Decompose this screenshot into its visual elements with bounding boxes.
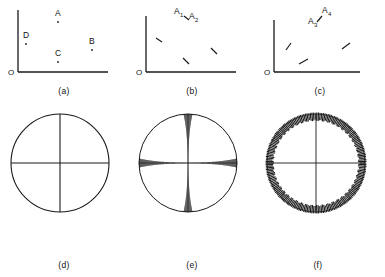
panel-a-graphic: O A D C B	[0, 0, 128, 86]
axes-b	[146, 16, 236, 72]
point-label-D: D	[23, 30, 29, 40]
dash-icon	[211, 48, 217, 54]
dot-icon	[57, 61, 59, 63]
panel-b-graphic: O A 1 A 2	[128, 0, 256, 86]
dash-icon	[286, 43, 291, 50]
panel-b: O A 1 A 2 (b)	[128, 0, 256, 105]
panel-caption-d: (d)	[0, 260, 128, 270]
point-label-A: A	[55, 8, 61, 18]
panel-e-graphic	[128, 110, 256, 258]
panel-e: (e)	[128, 110, 256, 277]
dash-icon-label-tick	[317, 16, 322, 22]
point-marker-a3: C	[55, 48, 61, 63]
panel-d: (d)	[0, 110, 128, 277]
panel-f-graphic	[254, 110, 382, 258]
point-label-C: C	[55, 48, 61, 58]
series-label-A3: A 3	[308, 16, 318, 28]
point-marker-a1: A	[55, 8, 61, 23]
dot-icon	[91, 49, 93, 51]
origin-label-a: O	[8, 68, 14, 77]
label-A3-subscript: 3	[314, 22, 318, 28]
point-label-B: B	[89, 36, 95, 46]
panel-d-graphic	[0, 110, 128, 258]
panel-c-graphic: O A 4 A 3	[256, 0, 384, 86]
panel-caption-b: (b)	[128, 86, 256, 96]
dash-icon	[156, 38, 162, 42]
dash-icon	[299, 59, 308, 64]
origin-label-c: O	[264, 68, 270, 77]
series-label-A4: A 4	[322, 5, 332, 17]
panel-caption-e: (e)	[128, 260, 256, 270]
circle-group-e	[139, 114, 237, 212]
dash-icon	[342, 43, 350, 49]
label-A2-subscript: 2	[195, 17, 199, 23]
figure-root: O A D C B (a)	[0, 0, 385, 277]
panel-caption-f: (f)	[254, 260, 382, 270]
panel-caption-a: (a)	[0, 86, 128, 96]
panel-a: O A D C B (a)	[0, 0, 128, 105]
circle-group-f	[265, 113, 366, 214]
point-marker-a4: B	[89, 36, 95, 51]
panel-c: O A 4 A 3 (c)	[256, 0, 384, 105]
panel-f: (f)	[254, 110, 382, 277]
dot-icon	[57, 21, 59, 23]
dash-markers-c	[286, 16, 350, 64]
series-label-A2: A 2	[189, 11, 199, 23]
dot-icon	[25, 43, 27, 45]
circle-group-d	[11, 114, 109, 212]
series-label-A1: A 1	[174, 6, 184, 18]
label-A4-subscript: 4	[328, 11, 332, 17]
origin-label-b: O	[136, 68, 142, 77]
dash-icon	[183, 58, 189, 64]
dash-markers-b	[156, 16, 217, 64]
point-marker-a2: D	[23, 30, 29, 45]
panel-caption-c: (c)	[256, 86, 384, 96]
label-A1-subscript: 1	[180, 12, 184, 18]
